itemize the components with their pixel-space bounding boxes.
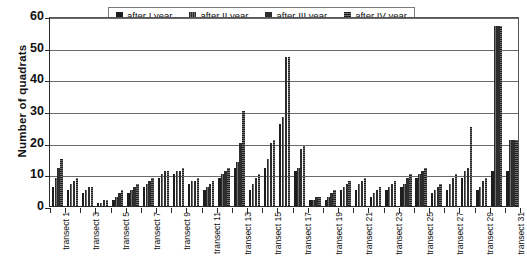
bar-group — [234, 18, 247, 206]
bar-group — [446, 18, 459, 206]
bar-group — [415, 18, 428, 206]
bar-group — [97, 18, 110, 206]
bar-group — [506, 18, 519, 206]
bar-group — [112, 18, 125, 206]
bar-group — [294, 18, 307, 206]
bar — [288, 57, 290, 206]
bar-group — [340, 18, 353, 206]
bar — [500, 26, 502, 207]
bar-group — [264, 18, 277, 206]
bar-chart: Number of quadrats after I yearafter II … — [0, 0, 527, 271]
y-tick-label: 10 — [0, 167, 44, 181]
bar-group — [188, 18, 201, 206]
bar — [455, 174, 457, 206]
y-tick-label: 60 — [0, 9, 44, 23]
bar — [258, 174, 260, 206]
x-tick-label: transect 23 — [394, 212, 404, 255]
x-tick-label: transect 9 — [182, 212, 192, 250]
bar-group — [203, 18, 216, 206]
x-tick-label: transect 17 — [303, 212, 313, 255]
bar-group — [385, 18, 398, 206]
bar-group — [370, 18, 383, 206]
x-tick-label: transect 3 — [91, 212, 101, 250]
bar-group — [173, 18, 186, 206]
bar — [439, 184, 441, 206]
bar — [303, 146, 305, 206]
bar-group — [279, 18, 292, 206]
bar-group — [476, 18, 489, 206]
bar — [470, 127, 472, 206]
bar-group — [355, 18, 368, 206]
bar-group — [67, 18, 80, 206]
bar-group — [431, 18, 444, 206]
bar — [318, 197, 320, 207]
x-tick-label: transect 25 — [425, 212, 435, 255]
x-tick-label: transect 7 — [152, 212, 162, 250]
bar-group — [249, 18, 262, 206]
bar-group — [52, 18, 65, 206]
x-tick-label: transect 13 — [243, 212, 253, 255]
bar — [273, 140, 275, 207]
x-tick-label: transect 1 — [61, 212, 71, 250]
x-axis-tick-labels: transect 1transect 3transect 5transect 7… — [49, 212, 519, 271]
bar — [212, 181, 214, 206]
x-tick-label: transect 27 — [455, 212, 465, 255]
bar — [136, 184, 138, 206]
bar — [333, 190, 335, 206]
x-tick-label: transect 19 — [334, 212, 344, 255]
bar — [76, 178, 78, 207]
y-tick-label: 20 — [0, 136, 44, 150]
bar — [167, 171, 169, 206]
bar — [394, 181, 396, 206]
bar — [197, 178, 199, 207]
bar — [182, 168, 184, 206]
bar-group — [143, 18, 156, 206]
y-tick-label: 40 — [0, 72, 44, 86]
bar — [227, 168, 229, 206]
bar-group — [325, 18, 338, 206]
bar-group — [82, 18, 95, 206]
x-tick-label: transect 21 — [364, 212, 374, 255]
bar — [60, 159, 62, 207]
plot-area — [49, 17, 519, 207]
bar — [409, 174, 411, 206]
bar — [424, 168, 426, 206]
bar — [242, 111, 244, 206]
x-tick-label: transect 11 — [212, 212, 222, 254]
y-tick-label: 30 — [0, 104, 44, 118]
bar — [121, 190, 123, 206]
bar-group — [218, 18, 231, 206]
bar — [348, 181, 350, 206]
y-tick-label: 50 — [0, 41, 44, 55]
bar — [91, 187, 93, 206]
bar — [106, 200, 108, 206]
x-tick-label: transect 31 — [516, 212, 526, 255]
bar-group — [491, 18, 504, 206]
bar — [151, 178, 153, 207]
bar-group — [127, 18, 140, 206]
x-tick-label: transect 5 — [121, 212, 131, 250]
bar — [364, 178, 366, 207]
y-tick-label: 0 — [0, 199, 44, 213]
bar-group — [461, 18, 474, 206]
x-tick-label: transect 15 — [273, 212, 283, 255]
bar — [515, 140, 517, 207]
bar — [485, 178, 487, 207]
bar-group — [400, 18, 413, 206]
bar-group — [158, 18, 171, 206]
bar — [379, 187, 381, 206]
x-tick-label: transect 29 — [485, 212, 495, 255]
bar-group — [309, 18, 322, 206]
bar-series-container — [50, 18, 518, 206]
